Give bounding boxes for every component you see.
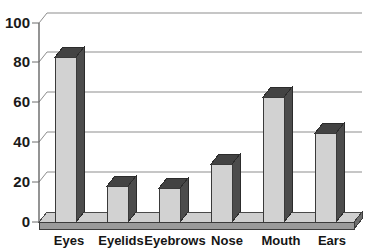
y-tick-label-100: 100: [5, 14, 30, 31]
x-label-ears: Ears: [318, 233, 346, 248]
bar-eyes-side: [76, 47, 84, 222]
x-label-eyebrows: Eyebrows: [144, 233, 205, 248]
bar-ears: [315, 123, 344, 222]
bar-ears-side: [336, 123, 344, 222]
y-tick-label-20: 20: [13, 173, 30, 190]
bar-eyelids: [107, 176, 136, 222]
bar-eyelids-face: [107, 186, 128, 222]
bar-eyebrows: [159, 178, 188, 222]
chart-canvas: 100 80 60 40 20 0 Eyes Eyelids Eyebrows …: [0, 0, 369, 251]
bar-mouth-face: [263, 97, 284, 222]
bar-nose-face: [211, 164, 232, 222]
bar-nose-side: [232, 154, 240, 222]
y-tick-label-60: 60: [13, 93, 30, 110]
y-tick-label-80: 80: [13, 53, 30, 70]
floor-front-face: [39, 222, 354, 229]
x-label-eyelids: Eyelids: [98, 233, 144, 248]
bar-eyes: [55, 47, 84, 222]
bar-nose: [211, 154, 240, 222]
x-label-nose: Nose: [211, 233, 243, 248]
bar-ears-face: [315, 133, 336, 222]
chart-floor: [39, 212, 362, 229]
bar-mouth: [263, 87, 292, 222]
y-tick-label-0: 0: [22, 213, 30, 230]
bar-eyebrows-face: [159, 188, 180, 222]
y-tick-label-40: 40: [13, 133, 30, 150]
x-label-eyes: Eyes: [54, 233, 84, 248]
bar-mouth-side: [284, 87, 292, 222]
floor-top-face: [39, 212, 362, 222]
x-label-mouth: Mouth: [262, 233, 301, 248]
bar-chart: 100 80 60 40 20 0 Eyes Eyelids Eyebrows …: [0, 0, 369, 251]
bar-eyes-face: [55, 57, 76, 222]
